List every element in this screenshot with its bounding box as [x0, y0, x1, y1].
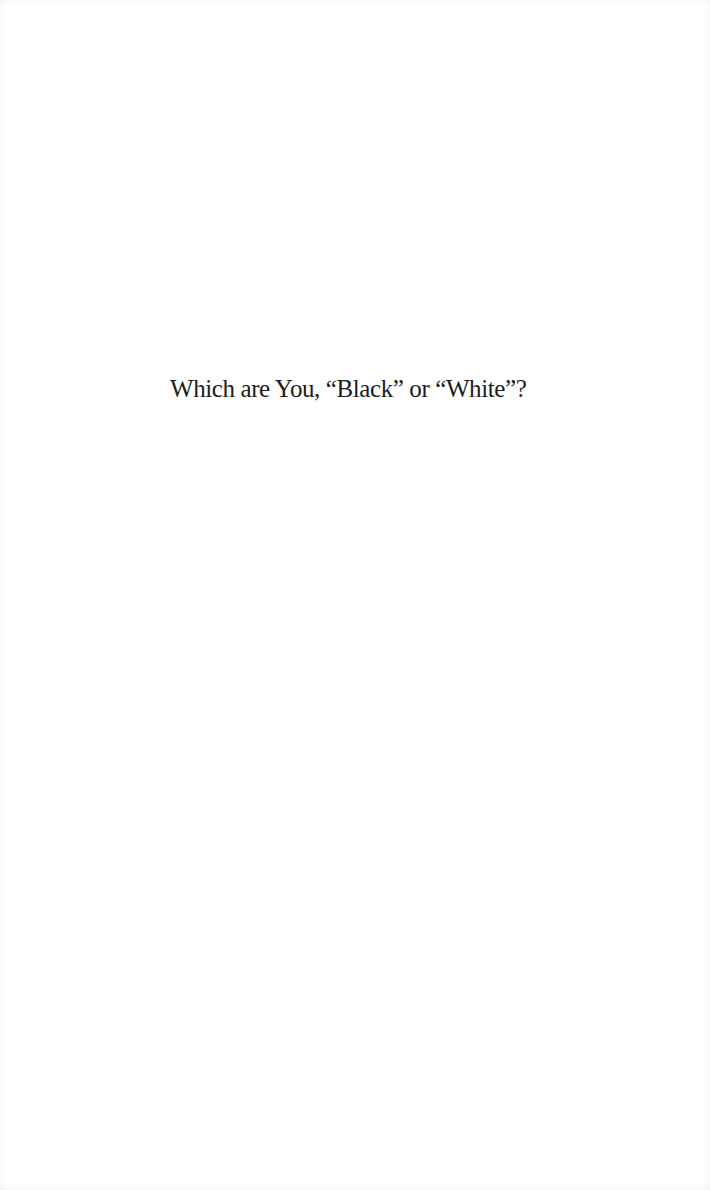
half-title: Which are You, “Black” or “White”? [170, 374, 526, 404]
book-page: Which are You, “Black” or “White”? [0, 0, 710, 1190]
